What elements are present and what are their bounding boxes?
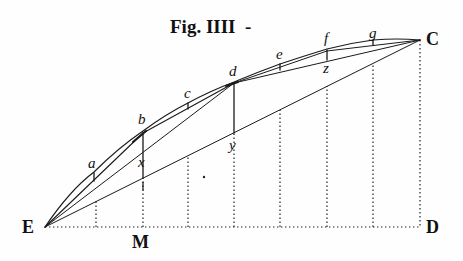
label-y: y bbox=[227, 137, 236, 153]
label-D: D bbox=[426, 217, 439, 237]
label-M: M bbox=[132, 232, 149, 252]
stray-dot bbox=[203, 176, 205, 178]
label-z: z bbox=[322, 60, 329, 76]
label-g: g bbox=[369, 25, 377, 41]
label-b: b bbox=[138, 111, 146, 127]
figure-title-dash: - bbox=[245, 16, 251, 37]
label-x: x bbox=[137, 154, 145, 170]
label-a: a bbox=[88, 155, 96, 171]
diagram-canvas: Fig. IIII - E M D C a b c d e f g x y z bbox=[0, 0, 463, 261]
figure-title: Fig. IIII bbox=[170, 16, 235, 37]
geometry-figure: Fig. IIII - E M D C a b c d e f g x y z bbox=[0, 0, 463, 261]
label-E: E bbox=[22, 217, 34, 237]
label-C: C bbox=[426, 29, 439, 49]
label-f: f bbox=[324, 30, 330, 46]
label-e: e bbox=[276, 46, 283, 62]
label-d: d bbox=[229, 63, 237, 79]
label-c: c bbox=[184, 85, 191, 101]
